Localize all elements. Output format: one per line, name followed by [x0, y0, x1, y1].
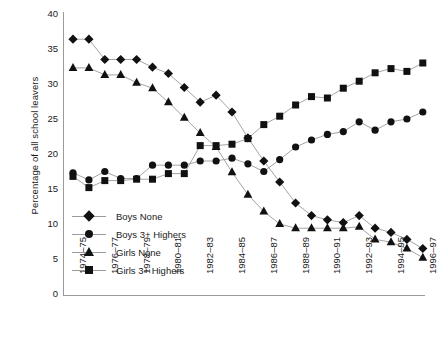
data-point [340, 128, 347, 135]
chart-container: Percentage of all school leavers 4035302… [0, 0, 442, 360]
data-point [229, 141, 236, 148]
data-point [132, 55, 141, 64]
circle-marker-icon [72, 228, 106, 240]
y-tick-label-20: 20 [32, 149, 58, 159]
x-tick-label-1982-83: 1982–83 [204, 237, 215, 299]
square-marker-icon [72, 264, 106, 276]
data-point [371, 224, 380, 233]
data-point [148, 63, 157, 72]
data-point [100, 55, 109, 64]
data-point [403, 115, 410, 122]
data-point [292, 102, 299, 109]
data-point [419, 108, 426, 115]
legend-marker [85, 266, 93, 274]
legend-item-label: Boys None [116, 211, 162, 222]
chart-legend: Boys NoneBoys 3+ HighersGirls NoneGirls … [72, 207, 186, 279]
data-point [260, 121, 267, 128]
legend-marker [83, 210, 94, 221]
data-point [244, 160, 251, 167]
series-line [73, 112, 423, 180]
data-point [355, 222, 364, 230]
data-point [386, 228, 395, 237]
data-point [165, 170, 172, 177]
data-point [418, 253, 427, 261]
x-axis-tick-labels: 1974–751976–771978–791980–811982–831984–… [0, 299, 442, 359]
data-point [259, 156, 268, 165]
data-point [419, 60, 426, 67]
legend-marker [84, 247, 94, 256]
data-point [68, 35, 77, 44]
data-point [85, 176, 92, 183]
data-point [101, 177, 108, 184]
data-point [307, 211, 316, 220]
x-tick-label-1994-95: 1994–95 [395, 237, 406, 299]
data-point [165, 162, 172, 169]
x-tick-label-1990-91: 1990–91 [331, 237, 342, 299]
data-point [197, 142, 204, 149]
legend-item-label: Girls None [116, 247, 161, 258]
data-point [244, 135, 251, 142]
data-point [197, 157, 204, 164]
triangle-marker-icon [72, 246, 106, 258]
x-tick-label-1986-87: 1986–87 [268, 237, 279, 299]
y-tick-label-10: 10 [32, 219, 58, 229]
legend-item-label: Girls 3+ Highers [116, 265, 184, 276]
data-point [323, 215, 332, 224]
data-point [149, 176, 156, 183]
legend-item-girls-none[interactable]: Girls None [72, 243, 186, 261]
data-point [275, 219, 284, 227]
data-point [116, 70, 125, 78]
data-point [69, 63, 78, 71]
data-point [70, 173, 77, 180]
data-point [228, 167, 237, 175]
legend-item-boys-3-highers[interactable]: Boys 3+ Highers [72, 225, 186, 243]
data-point [387, 118, 394, 125]
data-point [276, 113, 283, 120]
x-tick-label-1984-85: 1984–85 [236, 237, 247, 299]
data-point [308, 136, 315, 143]
data-point [340, 85, 347, 92]
data-point [85, 63, 94, 71]
y-tick-label-25: 25 [32, 114, 58, 124]
data-point [117, 177, 124, 184]
data-point [213, 157, 220, 164]
y-tick-label-15: 15 [32, 184, 58, 194]
data-point [85, 184, 92, 191]
series-line [73, 63, 423, 188]
data-point [276, 156, 283, 163]
y-tick-label-5: 5 [32, 254, 58, 264]
data-point [356, 118, 363, 125]
data-point [260, 168, 267, 175]
legend-item-label: Boys 3+ Highers [116, 229, 186, 240]
data-point [339, 223, 348, 231]
y-tick-label-40: 40 [32, 9, 58, 19]
data-point [213, 142, 220, 149]
series-boys-3-highers [69, 108, 426, 183]
y-tick-label-0: 0 [32, 289, 58, 299]
data-point [388, 65, 395, 72]
data-point [180, 113, 189, 121]
data-point [324, 95, 331, 102]
legend-item-girls-3-highers[interactable]: Girls 3+ Highers [72, 261, 186, 279]
data-point [372, 127, 379, 134]
x-tick-label-1996-97: 1996–97 [427, 237, 438, 299]
data-point [101, 168, 108, 175]
data-point [133, 176, 140, 183]
y-tick-label-35: 35 [32, 44, 58, 54]
y-tick-label-30: 30 [32, 79, 58, 89]
data-point [181, 170, 188, 177]
data-point [291, 198, 300, 207]
data-point [355, 211, 364, 220]
data-point [164, 97, 173, 105]
data-point [292, 143, 299, 150]
data-point [372, 69, 379, 76]
legend-item-boys-none[interactable]: Boys None [72, 207, 186, 225]
data-point [84, 35, 93, 44]
legend-marker [85, 230, 93, 238]
data-point [307, 223, 316, 231]
series-girls-3-highers [70, 60, 427, 192]
data-point [228, 155, 235, 162]
diamond-marker-icon [72, 210, 106, 222]
data-point [356, 78, 363, 85]
data-point [196, 128, 205, 136]
